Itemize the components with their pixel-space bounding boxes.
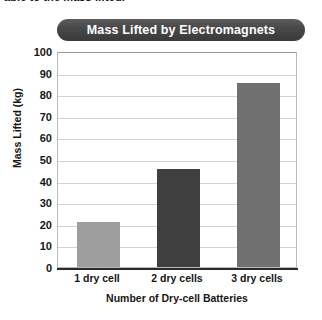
bar-chart: 0102030405060708090100 Mass Lifted (kg) … [0,0,322,320]
plot-area [57,52,297,268]
y-axis: 0102030405060708090100 [0,52,57,268]
bar-3 [237,83,280,267]
y-axis-tick-label: 100 [11,46,57,58]
bar-1 [77,222,120,267]
x-axis-line [57,268,298,270]
y-axis-tick-label: 0 [11,262,57,274]
y-axis-tick-label: 20 [11,219,57,231]
gridline [58,75,296,76]
y-axis-tick-label: 10 [11,240,57,252]
y-axis-title: Mass Lifted (kg) [11,68,23,188]
x-axis-tick-label: 1 dry cell [74,272,120,284]
x-axis-tick-labels: 1 dry cell2 dry cells3 dry cells [57,272,297,288]
x-axis-title: Number of Dry-cell Batteries [57,292,297,304]
x-axis-tick-label: 3 dry cells [231,272,282,284]
y-axis-tick-label: 30 [11,197,57,209]
bar-2 [157,169,200,267]
x-axis-tick-label: 2 dry cells [151,272,202,284]
